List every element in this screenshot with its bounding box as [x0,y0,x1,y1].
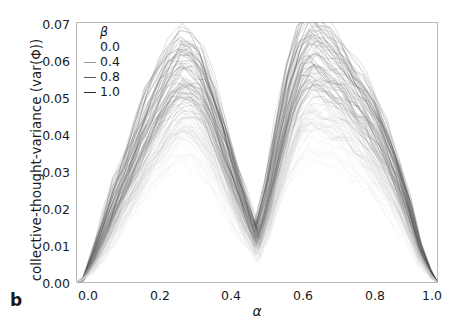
legend-entry: 0.0 [84,40,120,55]
legend-entry: 0.8 [84,70,120,85]
y-tick-label: 0.03 [26,165,70,180]
trace-bundle [76,22,438,283]
plot-area: β 0.0 0.4 0.8 1.0 [76,22,438,283]
y-tick-label: 0.06 [26,54,70,69]
y-tick-label: 0.01 [26,239,70,254]
figure-panel-b: b collective-thought-variance (var(Φ)) α… [0,0,452,326]
legend-label: 1.0 [100,86,120,99]
y-tick-label: 0.02 [26,202,70,217]
y-tick-label: 0.07 [26,17,70,32]
x-tick-label: 0.8 [352,288,398,303]
x-tick-label: 1.0 [409,288,452,303]
y-tick-label: 0.05 [26,91,70,106]
legend-swatch-icon [84,47,96,48]
y-axis-ticks: 0.00 0.01 0.02 0.03 0.04 0.05 0.06 0.07 [20,0,70,326]
y-tick-label: 0.00 [26,276,70,291]
legend-swatch-icon [84,92,96,93]
x-tick-label: 0.0 [65,288,111,303]
y-tick-label: 0.04 [26,128,70,143]
x-tick-label: 0.2 [137,288,183,303]
legend-label: 0.8 [100,71,120,84]
legend-label: 0.4 [100,56,120,69]
legend-label: 0.0 [100,41,120,54]
x-tick-label: 0.4 [208,288,254,303]
x-axis-title: α [76,303,438,319]
legend-swatch-icon [84,62,96,63]
legend: β 0.0 0.4 0.8 1.0 [84,26,120,100]
legend-title: β [84,26,120,39]
legend-entry: 0.4 [84,55,120,70]
x-tick-label: 0.6 [280,288,326,303]
legend-entry: 1.0 [84,85,120,100]
legend-swatch-icon [84,77,96,78]
